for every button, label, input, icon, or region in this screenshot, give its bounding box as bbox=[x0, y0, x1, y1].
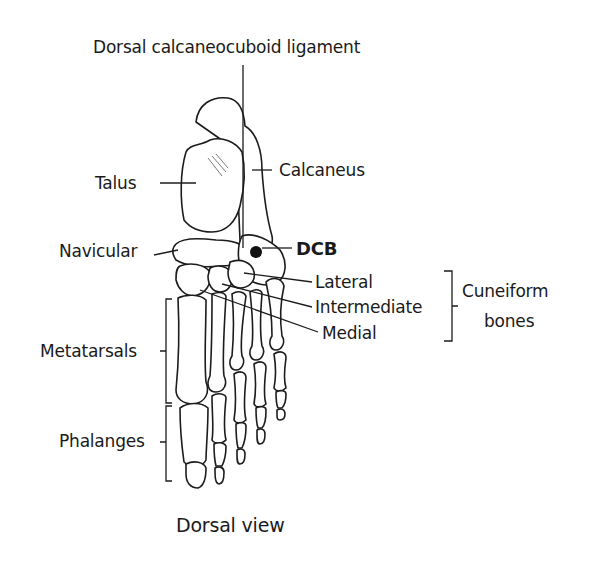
talus-label: Talus bbox=[95, 173, 136, 193]
phalanx-1-distal bbox=[186, 462, 206, 488]
phalanx-2-distal bbox=[215, 467, 224, 484]
phalanx-3-proximal bbox=[234, 372, 246, 423]
metatarsal-4 bbox=[250, 290, 264, 360]
dcb-label: DCB bbox=[296, 238, 337, 259]
phalanx-5-distal bbox=[277, 409, 285, 420]
lateral-label: Lateral bbox=[315, 272, 373, 292]
navicular-label: Navicular bbox=[59, 241, 137, 261]
caption-dorsal-view: Dorsal view bbox=[176, 514, 284, 536]
phalanx-4-distal bbox=[257, 429, 265, 444]
metatarsal-2 bbox=[208, 293, 226, 392]
metatarsals-bracket bbox=[160, 299, 172, 403]
phalanx-5-middle bbox=[276, 391, 286, 408]
metatarsal-1 bbox=[176, 295, 208, 404]
phalanx-2-proximal bbox=[212, 394, 226, 443]
phalanx-5-proximal bbox=[274, 352, 286, 391]
calcaneus-label: Calcaneus bbox=[279, 160, 365, 180]
dorsal-calcaneocuboid-ligament-label: Dorsal calcaneocuboid ligament bbox=[93, 37, 360, 57]
phalanx-4-proximal bbox=[254, 362, 266, 407]
phalanx-3-distal bbox=[237, 449, 245, 464]
medial-label: Medial bbox=[322, 323, 377, 343]
cuneiform-label: Cuneiform bbox=[462, 281, 548, 301]
phalanges-bracket bbox=[160, 406, 172, 481]
talus-bone bbox=[181, 139, 244, 232]
phalanx-2-middle bbox=[214, 443, 226, 466]
intermediate-label: Intermediate bbox=[315, 297, 422, 317]
phalanges-label: Phalanges bbox=[59, 431, 145, 451]
bones-label: bones bbox=[484, 311, 534, 331]
dcb-marker bbox=[250, 246, 262, 258]
phalanx-4-middle bbox=[256, 407, 266, 428]
phalanx-1-proximal bbox=[180, 404, 208, 467]
phalanx-3-middle bbox=[236, 423, 246, 448]
metatarsals-label: Metatarsals bbox=[40, 341, 137, 361]
cuneiform-bracket bbox=[444, 271, 458, 341]
